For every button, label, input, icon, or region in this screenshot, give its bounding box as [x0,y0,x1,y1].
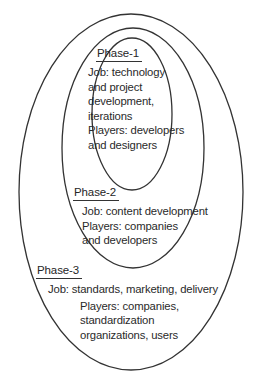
phase-2-heading: Phase-2 [73,186,119,201]
phase-2-line-3: and developers [82,233,208,248]
phase-3-job-line: Job: standards, marketing, delivery [48,282,218,297]
phase-3-players-line-2: standardization [80,313,218,328]
phase-1-heading: Phase-1 [96,47,142,62]
phase-2-line-2: Players: companies [82,219,208,234]
phase-1-block: Phase-1 Job: technology and project deve… [88,43,184,153]
phase-3-body: Job: standards, marketing, delivery Play… [36,282,218,342]
phase-3-players-line-3: organizations, users [80,328,218,343]
phase-3-players-group: Players: companies, standardization orga… [80,299,218,343]
phase-3-block: Phase-3 Job: standards, marketing, deliv… [36,260,218,342]
phase-3-heading: Phase-3 [36,264,82,279]
phase-1-line-2: and project [88,80,184,95]
phase-1-line-3: development, [88,94,184,109]
phase-1-line-4: iterations [88,109,184,124]
phase-2-block: Phase-2 Job: content development Players… [73,182,208,248]
phase-2-body: Job: content development Players: compan… [82,204,208,248]
phase-2-line-1: Job: content development [82,204,208,219]
phase-1-line-6: and designers [88,138,184,153]
phase-3-players-line-1: Players: companies, [80,299,218,314]
diagram-text-layer: Phase-1 Job: technology and project deve… [0,0,263,386]
phase-1-body: Job: technology and project development,… [88,65,184,153]
phase-1-line-5: Players: developers [88,123,184,138]
phase-1-line-1: Job: technology [88,65,184,80]
phase-ellipse-diagram: Phase-1 Job: technology and project deve… [0,0,263,386]
